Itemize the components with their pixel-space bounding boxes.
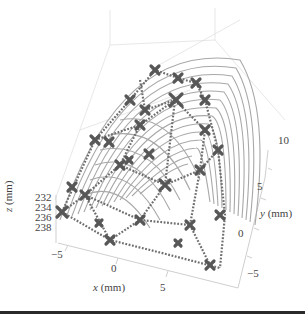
y-tick: −5 xyxy=(247,267,259,279)
y-tick: 0 xyxy=(238,227,244,239)
x-axis-label: x (mm) xyxy=(93,281,125,293)
x-axis-var: x xyxy=(93,281,98,293)
y-axis-var: y xyxy=(260,207,265,219)
x-tick: −5 xyxy=(51,248,63,260)
y-tick: 10 xyxy=(278,134,289,146)
x-tick: 0 xyxy=(111,262,117,274)
z-tick: 238 xyxy=(35,221,52,233)
3d-plot xyxy=(0,0,305,296)
y-axis-label: y (mm) xyxy=(260,207,292,219)
y-axis-unit: (mm) xyxy=(268,207,292,219)
z-axis-unit: (mm) xyxy=(2,181,14,205)
y-tick: 5 xyxy=(257,180,263,192)
x-tick: 5 xyxy=(160,281,166,293)
z-axis-label: z (mm) xyxy=(2,181,14,212)
z-axis-var: z xyxy=(2,208,14,212)
x-axis-unit: (mm) xyxy=(101,281,125,293)
